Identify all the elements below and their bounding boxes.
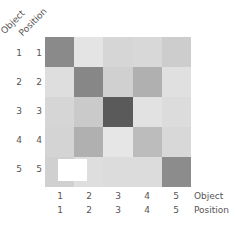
heatmap-cell-r2-c4 xyxy=(133,67,162,97)
heatmap-cell-r3-c1 xyxy=(45,97,74,127)
col-label-position-5: 5 xyxy=(170,205,182,215)
heatmap-cell-r1-c1 xyxy=(45,37,74,67)
heatmap-cell-r3-c2 xyxy=(74,97,103,127)
col-label-object-4: 4 xyxy=(141,191,153,201)
heatmap-cell-r3-c3 xyxy=(103,97,132,127)
heatmap-cell-r1-c2 xyxy=(74,37,103,67)
row-label-position-5: 5 xyxy=(34,164,44,174)
col-label-object-2: 2 xyxy=(83,191,95,201)
col-label-object-5: 5 xyxy=(170,191,182,201)
heatmap-cell-r5-c5 xyxy=(162,157,191,187)
heatmap-cell-r4-c1 xyxy=(45,127,74,157)
row-label-object-2: 2 xyxy=(14,77,24,87)
heatmap-cell-r5-c3 xyxy=(103,157,132,187)
heatmap-cell-r2-c1 xyxy=(45,67,74,97)
col-label-position-1: 1 xyxy=(54,205,66,215)
bottom-axis-name-object: Object xyxy=(194,191,223,201)
heatmap-cell-r2-c5 xyxy=(162,67,191,97)
col-label-object-3: 3 xyxy=(112,191,124,201)
heatmap-chart: Object Position 1 2 3 4 5 1 2 3 4 5 1 2 … xyxy=(0,0,236,225)
heatmap-cell-r4-c4 xyxy=(133,127,162,157)
row-label-position-3: 3 xyxy=(34,106,44,116)
bottom-axis-name-position: Position xyxy=(194,205,229,215)
heatmap-cell-r1-c4 xyxy=(133,37,162,67)
highlight-box xyxy=(58,159,87,181)
heatmap-cell-r5-c4 xyxy=(133,157,162,187)
row-label-object-1: 1 xyxy=(14,48,24,58)
col-label-position-2: 2 xyxy=(83,205,95,215)
heatmap-cell-r1-c5 xyxy=(162,37,191,67)
row-label-object-3: 3 xyxy=(14,106,24,116)
heatmap-cell-r4-c5 xyxy=(162,127,191,157)
col-label-object-1: 1 xyxy=(54,191,66,201)
heatmap-cell-r2-c2 xyxy=(74,67,103,97)
heatmap-cell-r2-c3 xyxy=(103,67,132,97)
heatmap-cell-r3-c4 xyxy=(133,97,162,127)
row-label-position-4: 4 xyxy=(34,135,44,145)
heatmap-cell-r3-c5 xyxy=(162,97,191,127)
col-label-position-4: 4 xyxy=(141,205,153,215)
heatmap-cell-r4-c2 xyxy=(74,127,103,157)
heatmap-cell-r1-c3 xyxy=(103,37,132,67)
col-label-position-3: 3 xyxy=(112,205,124,215)
row-label-object-4: 4 xyxy=(14,135,24,145)
heatmap-cell-r4-c3 xyxy=(103,127,132,157)
row-label-object-5: 5 xyxy=(14,164,24,174)
row-label-position-2: 2 xyxy=(34,77,44,87)
row-label-position-1: 1 xyxy=(34,48,44,58)
